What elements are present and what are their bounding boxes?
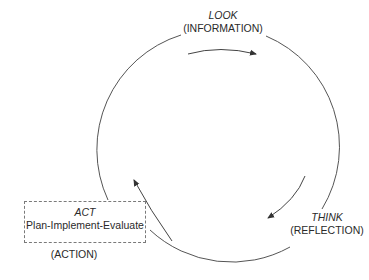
look-title: LOOK xyxy=(168,9,278,22)
look-think-act-diagram: LOOK (INFORMATION) THINK (REFLECTION) AC… xyxy=(0,0,369,280)
flow-arrows xyxy=(134,50,305,242)
act-caption: (ACTION) xyxy=(24,248,124,261)
think-stage-label: THINK (REFLECTION) xyxy=(282,211,369,237)
arrow-look-to-think xyxy=(188,50,256,55)
look-stage-label: LOOK (INFORMATION) xyxy=(168,9,278,35)
think-subtitle: (REFLECTION) xyxy=(282,224,369,237)
act-stage-label: ACT Plan-Implement-Evaluate xyxy=(24,206,146,232)
act-subtitle: Plan-Implement-Evaluate xyxy=(24,219,146,232)
think-title: THINK xyxy=(282,211,369,224)
look-subtitle: (INFORMATION) xyxy=(168,22,278,35)
act-title: ACT xyxy=(24,206,146,219)
